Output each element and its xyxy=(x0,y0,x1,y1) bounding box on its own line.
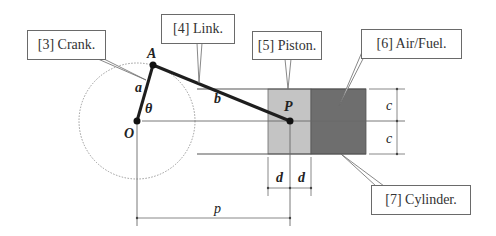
link-callout-pointer xyxy=(197,43,202,83)
callout-link: [4] Link. xyxy=(161,14,235,44)
symbol-c-top-label: c xyxy=(386,99,392,113)
symbol-d-right-label: d xyxy=(298,171,305,185)
callout-crank-label: [3] Crank. xyxy=(38,37,96,53)
callout-link-label: [4] Link. xyxy=(173,21,223,37)
airfuel-block xyxy=(311,89,366,154)
slider-crank-diagram: [3] Crank. [4] Link. [5] Piston. [6] Air… xyxy=(0,0,496,236)
joint-a xyxy=(150,62,157,69)
callout-airfuel-label: [6] Air/Fuel. xyxy=(377,36,447,52)
symbol-c-bottom-label: c xyxy=(386,132,392,146)
symbol-d-left-label: d xyxy=(276,171,283,185)
cylinder-callout-pointer xyxy=(341,154,384,186)
symbol-theta-label: θ xyxy=(145,102,152,116)
callout-piston-label: [5] Piston. xyxy=(258,38,316,54)
callout-cylinder-label: [7] Cylinder. xyxy=(385,192,457,208)
point-a-label: A xyxy=(147,47,156,61)
symbol-b-label: b xyxy=(214,92,221,106)
joint-p xyxy=(287,118,294,125)
point-o-label: O xyxy=(124,127,134,141)
callout-airfuel: [6] Air/Fuel. xyxy=(361,29,462,59)
callout-crank: [3] Crank. xyxy=(27,30,106,60)
crank-callout-pointer xyxy=(98,59,146,80)
point-p-label: P xyxy=(284,100,293,114)
callout-piston: [5] Piston. xyxy=(252,31,322,60)
symbol-a-label: a xyxy=(135,81,142,95)
callout-cylinder: [7] Cylinder. xyxy=(371,185,471,215)
symbol-p-label: p xyxy=(214,202,221,216)
joint-o xyxy=(134,118,141,125)
piston-callout-pointer xyxy=(285,59,291,89)
